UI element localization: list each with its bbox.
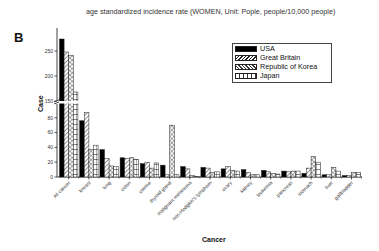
bar xyxy=(221,169,226,177)
svg-text:200: 200 xyxy=(45,73,54,79)
bar xyxy=(347,176,352,177)
bar xyxy=(140,164,145,177)
bar xyxy=(120,158,125,177)
bar xyxy=(352,173,357,177)
svg-text:60: 60 xyxy=(47,129,53,135)
legend-label: Republic of Korea xyxy=(260,62,317,71)
svg-text:150: 150 xyxy=(45,98,54,104)
bar xyxy=(331,167,336,177)
vertical-lines-swatch-icon xyxy=(235,73,257,79)
bar xyxy=(201,167,206,177)
legend-item-japan: Japan xyxy=(233,71,331,80)
bar xyxy=(262,170,267,177)
cross-hatch-swatch-icon xyxy=(235,64,257,70)
category-labels: All cancerbreastlungcolonuterinethyroid … xyxy=(52,179,355,221)
bar xyxy=(134,159,139,177)
svg-text:20: 20 xyxy=(47,159,53,165)
bar xyxy=(307,168,312,177)
bar xyxy=(69,56,74,178)
svg-text:leukemia: leukemia xyxy=(255,179,274,198)
bar xyxy=(226,167,231,177)
bar xyxy=(60,39,65,177)
svg-text:80: 80 xyxy=(47,115,53,121)
svg-text:lung: lung xyxy=(101,179,112,190)
bar xyxy=(316,162,321,177)
bar xyxy=(342,176,347,177)
bar xyxy=(181,167,186,177)
bar xyxy=(322,175,327,177)
bar xyxy=(230,170,235,177)
bar xyxy=(73,92,78,177)
legend-item-korea: Republic of Korea xyxy=(233,62,331,71)
bar xyxy=(356,173,361,177)
svg-text:0: 0 xyxy=(50,174,53,180)
bar xyxy=(336,171,341,177)
bar xyxy=(174,175,179,177)
bar-chart: 020406080150200250 All cancerbreastlungc… xyxy=(0,0,379,251)
bar xyxy=(296,171,301,177)
bar xyxy=(190,176,195,177)
bar xyxy=(161,165,166,177)
bar xyxy=(255,175,260,177)
svg-text:ovary: ovary xyxy=(220,179,233,192)
bar xyxy=(185,169,190,177)
bar xyxy=(105,159,110,178)
bar xyxy=(286,172,291,177)
bar xyxy=(109,166,114,177)
bar xyxy=(114,167,119,177)
svg-text:malignant melanoma: malignant melanoma xyxy=(156,179,193,216)
svg-text:gallbladder: gallbladder xyxy=(333,179,355,201)
bar xyxy=(302,173,307,177)
solid-swatch-icon xyxy=(235,46,257,52)
bar xyxy=(282,171,287,177)
bar xyxy=(94,145,99,177)
bar xyxy=(84,113,89,177)
bar xyxy=(291,171,296,177)
svg-text:40: 40 xyxy=(47,144,53,150)
legend-label: Great Britain xyxy=(260,53,300,62)
bar xyxy=(275,174,280,177)
diagonal-hatch-swatch-icon xyxy=(235,55,257,61)
bar xyxy=(150,168,155,177)
bar xyxy=(154,163,159,177)
svg-text:colon: colon xyxy=(119,179,132,192)
bar xyxy=(129,158,134,177)
bar xyxy=(64,52,69,177)
bar xyxy=(327,175,332,177)
bar xyxy=(125,159,130,178)
bar xyxy=(241,170,246,177)
bar xyxy=(165,175,170,177)
svg-text:non-Hodgkin's lymphom: non-Hodgkin's lymphom xyxy=(171,179,213,221)
bar xyxy=(246,173,251,177)
bar xyxy=(206,168,211,177)
bar xyxy=(266,172,271,177)
svg-text:liver: liver xyxy=(323,179,334,190)
svg-text:stomach: stomach xyxy=(296,179,314,197)
svg-text:250: 250 xyxy=(45,48,54,54)
bar xyxy=(195,176,200,177)
bar xyxy=(235,171,240,177)
bar xyxy=(100,150,105,177)
svg-text:All cancer: All cancer xyxy=(52,179,72,199)
bar xyxy=(311,156,316,177)
bar xyxy=(271,173,276,177)
legend-item-usa: USA xyxy=(233,44,331,53)
bar xyxy=(215,172,220,177)
bar xyxy=(89,150,94,177)
svg-text:pancreas: pancreas xyxy=(275,179,294,198)
svg-text:breast: breast xyxy=(78,179,93,194)
legend-item-great-britain: Great Britain xyxy=(233,53,331,62)
legend: USA Great Britain Republic of Korea Japa… xyxy=(232,43,332,83)
bar xyxy=(170,125,175,177)
bar xyxy=(251,175,256,177)
svg-text:kidney: kidney xyxy=(239,179,254,194)
bar xyxy=(210,173,215,177)
bar xyxy=(145,162,150,177)
svg-text:uterine: uterine xyxy=(137,179,152,194)
bar xyxy=(80,121,85,177)
legend-label: USA xyxy=(260,44,275,53)
legend-label: Japan xyxy=(260,71,280,80)
